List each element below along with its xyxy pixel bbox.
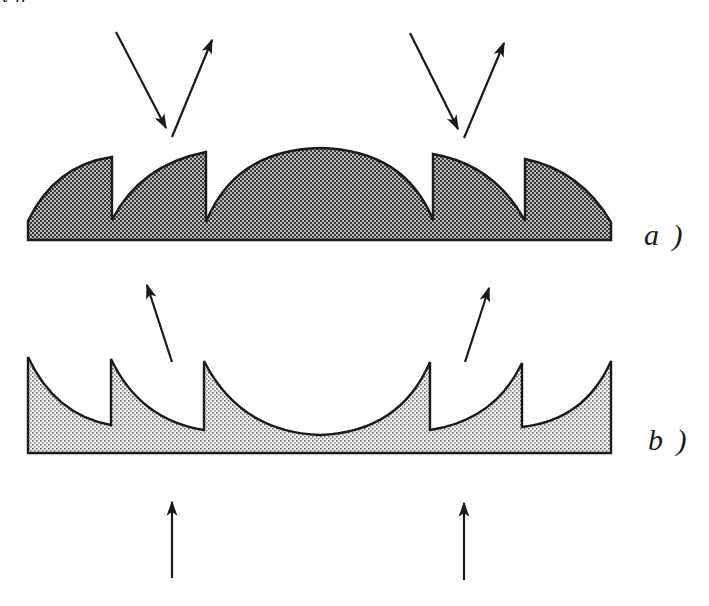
- panel-b: [28, 285, 611, 580]
- reflected-ray-right-arrow-icon: [464, 43, 504, 138]
- panel-a: [28, 32, 611, 240]
- incident-ray-right-arrow-icon: [410, 33, 458, 129]
- ray-arrows-a: [116, 32, 504, 138]
- panel-label-a: a ): [644, 220, 686, 250]
- transmitted-ray-right-arrow-icon: [465, 288, 489, 362]
- panel-label-b: b ): [648, 425, 690, 455]
- reflected-ray-left-arrow-icon: [172, 40, 212, 137]
- fresnel-lens-diagram: [0, 0, 709, 606]
- transmitted-ray-left-arrow-icon: [147, 285, 172, 362]
- incident-ray-left-arrow-icon: [116, 32, 166, 128]
- convex-fresnel-profile-a: [28, 148, 611, 240]
- concave-fresnel-profile-b: [28, 357, 611, 453]
